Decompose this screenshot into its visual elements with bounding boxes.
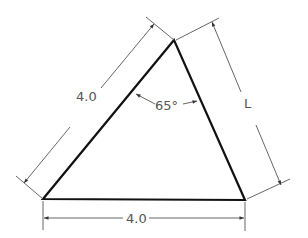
left-side-label: 4.0	[76, 89, 97, 104]
bottom-side-label: 4.0	[126, 211, 147, 226]
triangle-diagram: 4.0 4.0 L 65°	[0, 0, 308, 238]
triangle	[43, 40, 245, 200]
diagram-svg: 4.0 4.0 L 65°	[0, 0, 308, 238]
left-dimension	[16, 17, 174, 199]
right-side-label: L	[244, 96, 252, 111]
angle-label: 65°	[155, 98, 178, 113]
